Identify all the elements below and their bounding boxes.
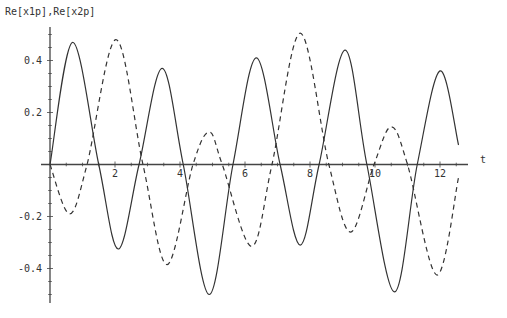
series-group bbox=[50, 33, 459, 294]
series-re-x2p bbox=[50, 33, 459, 275]
y-tick-label: 0.2 bbox=[24, 107, 42, 118]
x-tick-label: 12 bbox=[434, 168, 446, 179]
axes: 24681012-0.4-0.20.20.4 bbox=[18, 27, 468, 303]
x-axis-title: t bbox=[480, 154, 486, 165]
x-tick-label: 2 bbox=[112, 168, 118, 179]
line-chart: 24681012-0.4-0.20.20.4 t bbox=[0, 0, 507, 318]
y-tick-label: 0.4 bbox=[24, 55, 42, 66]
y-tick-label: -0.4 bbox=[18, 263, 42, 274]
x-tick-label: 8 bbox=[307, 168, 313, 179]
y-tick-label: -0.2 bbox=[18, 211, 42, 222]
x-tick-label: 4 bbox=[177, 168, 183, 179]
x-tick-label: 6 bbox=[242, 168, 248, 179]
